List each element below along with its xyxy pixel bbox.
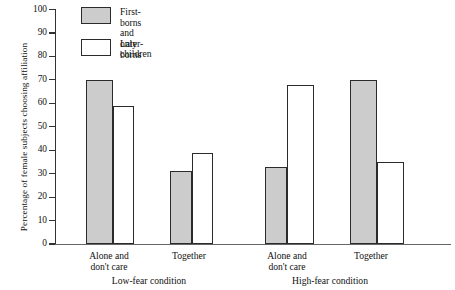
- bar-chart: Percentage of female subjects choosing a…: [0, 0, 455, 290]
- legend-swatch-later-borns: [81, 39, 111, 56]
- group-label-high-fear: High-fear condition: [250, 275, 410, 286]
- y-tick-90: [49, 32, 55, 33]
- x-category-label-2: Together: [149, 250, 229, 261]
- y-tick-20: [49, 197, 55, 198]
- y-tick-label-30: 30: [0, 169, 47, 178]
- legend-item-later-borns: Later-borns: [81, 39, 143, 60]
- legend-label-later-borns: Later-borns: [120, 39, 143, 60]
- y-tick-50: [49, 126, 55, 127]
- bar-series0-cat3: [350, 80, 377, 244]
- bar-series1-cat0: [113, 106, 134, 244]
- y-tick-label-90: 90: [0, 28, 47, 37]
- legend-swatch-first-borns: [81, 7, 111, 24]
- y-tick-30: [49, 173, 55, 174]
- y-tick-label-60: 60: [0, 98, 47, 107]
- y-tick-label-50: 50: [0, 122, 47, 131]
- bar-series1-cat2: [287, 85, 314, 244]
- y-tick-10: [49, 220, 55, 221]
- y-tick-40: [49, 150, 55, 151]
- y-tick-label-0: 0: [0, 239, 47, 248]
- x-category-label-4: Together: [331, 250, 411, 261]
- y-tick-label-100: 100: [0, 5, 47, 14]
- y-tick-label-40: 40: [0, 145, 47, 154]
- y-tick-label-10: 10: [0, 216, 47, 225]
- y-tick-label-70: 70: [0, 75, 47, 84]
- bar-series0-cat0: [86, 80, 113, 244]
- y-tick-label-80: 80: [0, 51, 47, 60]
- x-category-label-3: Alone and don't care: [247, 250, 327, 272]
- y-axis-line: [55, 9, 56, 245]
- y-tick-label-20: 20: [0, 192, 47, 201]
- y-tick-70: [49, 79, 55, 80]
- bar-series1-cat3: [377, 162, 404, 244]
- y-tick-100: [49, 9, 55, 10]
- y-tick-80: [49, 56, 55, 57]
- bar-series1-cat1: [192, 153, 214, 244]
- y-tick-0: [49, 243, 55, 244]
- y-tick-60: [49, 103, 55, 104]
- bar-series0-cat2: [265, 167, 287, 244]
- group-label-low-fear: Low-fear condition: [69, 275, 229, 286]
- x-category-label-1: Alone and don't care: [69, 250, 149, 272]
- bar-series0-cat1: [170, 171, 192, 244]
